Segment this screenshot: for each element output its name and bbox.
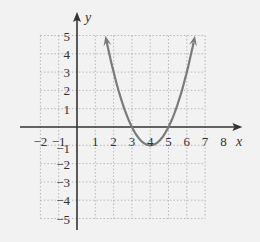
x-axis-label: x [235,134,243,149]
tick-labels: xy−2−11234567854321−1−2−3−4−5 [33,10,243,227]
y-tick-label: 4 [64,47,71,62]
y-tick-label: −2 [56,157,70,172]
y-tick-label: −3 [56,175,70,190]
x-tick-label: 2 [110,134,117,149]
x-tick-label: 3 [129,134,136,149]
y-tick-label: 1 [64,102,71,117]
y-tick-label: 5 [64,29,71,44]
y-axis-label: y [83,10,92,25]
y-tick-label: −5 [56,212,70,227]
x-tick-label: 8 [220,134,227,149]
y-tick-label: 3 [64,65,71,80]
x-tick-label: 4 [147,134,154,149]
axes [20,12,242,230]
y-tick-label: −1 [56,141,70,156]
parabola-graph: xy−2−11234567854321−1−2−3−4−5 [0,0,260,242]
y-tick-label: 2 [64,83,71,98]
x-tick-label: 6 [184,134,191,149]
x-tick-label: 1 [92,134,99,149]
y-tick-label: −4 [56,193,70,208]
x-tick-label: 7 [202,134,209,149]
x-tick-label: −2 [33,134,47,149]
x-tick-label: 5 [165,134,172,149]
